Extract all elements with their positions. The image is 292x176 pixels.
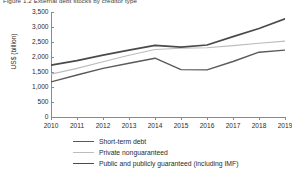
x-tick-mark	[103, 117, 104, 120]
legend-item: Public and publicly guaranteed (includin…	[73, 158, 288, 169]
x-tick-mark	[285, 117, 286, 120]
legend-item: Short-term debt	[73, 136, 288, 147]
legend-label: Private nonguaranteed	[99, 149, 168, 157]
x-tick-mark	[259, 117, 260, 120]
x-tick-mark	[77, 117, 78, 120]
x-tick-mark	[181, 117, 182, 120]
y-tick-label: 2,500	[32, 39, 51, 46]
y-tick-label: 1,500	[32, 69, 51, 76]
plot-area: 05001,0001,5002,0002,5003,0003,500 20102…	[51, 12, 285, 117]
legend-swatch	[73, 141, 94, 142]
x-tick-mark	[155, 117, 156, 120]
legend-item: Private nonguaranteed	[73, 147, 288, 158]
y-tick-label: 1,000	[32, 84, 51, 91]
x-tick-mark	[233, 117, 234, 120]
y-tick-label: 3,500	[32, 9, 51, 16]
chart-figure: Figure 1.2 External debt stocks by credi…	[0, 0, 292, 176]
y-axis-label: US$ (billion)	[10, 22, 17, 82]
legend-label: Short-term debt	[99, 138, 146, 146]
y-tick-label: 2,000	[32, 54, 51, 61]
y-tick-label: 3,000	[32, 24, 51, 31]
x-axis-line	[51, 117, 286, 118]
series-lines	[51, 12, 285, 117]
legend-swatch	[73, 163, 94, 164]
x-tick-mark	[129, 117, 130, 120]
x-tick-label-2019: 2019	[270, 122, 292, 129]
y-tick-label: 500	[37, 99, 51, 106]
chart-legend: Short-term debtPrivate nonguaranteedPubl…	[73, 136, 288, 169]
legend-swatch	[73, 152, 94, 153]
figure-title-clipped: Figure 1.2 External debt stocks by credi…	[3, 0, 233, 7]
x-tick-mark	[207, 117, 208, 120]
figure-title-text: Figure 1.2 External debt stocks by credi…	[3, 0, 233, 4]
series-line-public-and-publicly-guaranteed-including-imf	[51, 19, 285, 65]
legend-label: Public and publicly guaranteed (includin…	[99, 160, 238, 168]
x-tick-mark	[51, 117, 52, 120]
